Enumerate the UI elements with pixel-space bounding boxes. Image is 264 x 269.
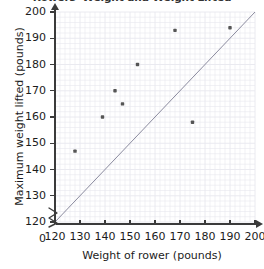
data-point xyxy=(121,102,124,105)
x-axis-tick xyxy=(54,220,55,224)
x-axis-tick xyxy=(204,220,205,224)
x-axis-tick xyxy=(79,220,80,224)
scatter-plot-screenshot: Rowers' Weight and Weight Lifted 1201301… xyxy=(0,0,264,269)
data-point xyxy=(136,63,139,66)
y-axis-tick xyxy=(50,11,54,12)
x-axis-tick-label: 200 xyxy=(240,230,264,243)
data-point xyxy=(191,121,194,124)
x-axis-tick xyxy=(179,220,180,224)
y-axis-tick xyxy=(50,195,54,196)
y-axis-line xyxy=(54,8,56,224)
x-axis-tick xyxy=(104,220,105,224)
plot-area xyxy=(55,12,255,222)
data-point xyxy=(73,149,76,152)
y-axis-tick xyxy=(50,90,54,91)
data-point xyxy=(101,115,104,118)
chart-title: Rowers' Weight and Weight Lifted xyxy=(0,0,264,3)
axis-break-icon xyxy=(46,206,66,228)
x-axis-tick xyxy=(229,220,230,224)
y-axis-arrow-icon xyxy=(51,3,59,10)
data-point xyxy=(113,89,116,92)
x-axis-arrow-icon xyxy=(256,220,263,228)
y-axis-tick xyxy=(50,169,54,170)
x-axis-title: Weight of rower (pounds) xyxy=(40,249,264,262)
y-axis-tick xyxy=(50,64,54,65)
x-axis-tick xyxy=(254,220,255,224)
data-point xyxy=(173,29,176,32)
y-axis-title: Maximum weight lifted (pounds) xyxy=(13,7,26,227)
x-axis-tick xyxy=(129,220,130,224)
x-axis-tick xyxy=(154,220,155,224)
y-axis-tick xyxy=(50,143,54,144)
y-axis-tick xyxy=(50,38,54,39)
data-point xyxy=(228,26,231,29)
data-points xyxy=(55,12,255,222)
y-axis-tick xyxy=(50,116,54,117)
